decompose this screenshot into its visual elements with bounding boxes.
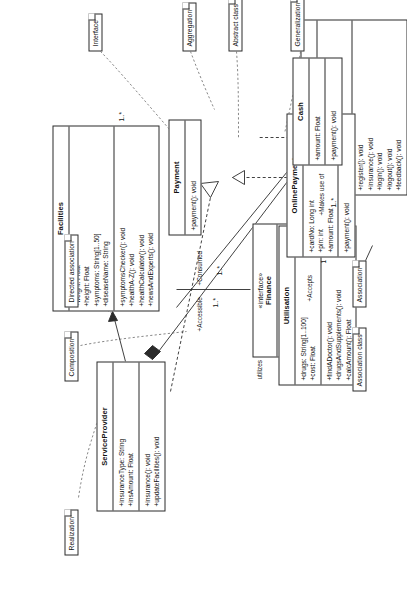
note-interface[interactable]: Interface [88,13,102,51]
multiplicity-facilities-1: 1..* [212,297,218,307]
note-realization[interactable]: Realization [64,509,78,555]
note-leader-interface [100,51,176,137]
method-row: +updateFacilities(): void [151,366,161,506]
multiplicity-util-1: 1..* [118,111,124,121]
method-row: +logout(): void [384,24,394,190]
method-row: +symptomsChecker(): void [117,130,127,306]
note-generalization[interactable]: Generalization [290,0,304,51]
method-row: +payment(): void [328,62,338,160]
edge-label-makes-use-of: +Makes use of [318,173,324,215]
class-payment[interactable]: Payment +payment(): void [168,119,201,235]
class-methods: +payment(): void [325,58,341,164]
class-title: Payment [169,120,185,234]
attribute-row: +height: Float [81,130,91,306]
class-serviceprovider[interactable]: ServiceProvider +insuranceType: String +… [96,361,165,511]
note-composition[interactable]: Composition [64,331,78,381]
edge-label-accessible: +Accessible [196,297,202,331]
realization-triangle [200,181,218,197]
composition-diamond [144,345,160,359]
note-abstract-class[interactable]: Abstract class [228,0,242,51]
class-attributes: +amount: Float [309,58,326,164]
note-directed-association[interactable]: Directed association [64,234,78,307]
class-methods: +register(): void +insurance(): void +lo… [352,20,406,194]
method-row: +payment(): void [188,124,198,230]
multiplicity-facilities-2: 1..* [216,265,222,275]
method-row: +insurance(): void [142,366,152,506]
method-row: +healthCalculator(): void [136,130,146,306]
note-leader-aggregation [190,51,214,109]
edge-label-consumed: +Consumed [196,250,202,285]
method-row: +login(): void [374,24,384,190]
class-cash[interactable]: Cash +amount: Float +payment(): void [292,57,342,165]
method-row: +healthA-Z(): void [126,130,136,306]
class-title: Cash [293,58,309,164]
edge-label-utilizes: utilizes [256,359,262,379]
attribute-row: +amount: Float [312,62,322,160]
method-row: +newsAndExperts(): void [145,130,155,306]
class-title: «interface» Finance [253,224,277,356]
edge-label-accepts: +Accepts [306,275,312,301]
attribute-row: +symptoms: String[1..50] [91,130,101,306]
attribute-row: +insAmount: Float [125,366,135,506]
method-row: +register(): void [355,24,365,190]
makes-use-of-triangle [232,170,244,184]
note-leader-abstract-class [236,51,238,137]
attribute-row: +insuranceType: String [116,366,126,506]
note-association-class[interactable]: Association class [352,327,366,391]
method-row: +payment(): void [341,118,351,252]
method-row: +feedback(): void [393,24,403,190]
class-name: Finance [263,275,272,304]
directed-association-arrowhead [108,311,117,321]
attribute-row: +diseaseName: String [100,130,110,306]
class-methods: +payment(): void [185,120,201,234]
method-row: +insurance(): void [365,24,375,190]
multiplicity-user-1: 1..* [330,197,336,207]
note-association[interactable]: Association [352,260,366,307]
class-methods: +insurance(): void +updateFacilities(): … [139,362,164,510]
note-leader-composition [80,331,186,345]
class-attributes: +insuranceType: String +insAmount: Float [113,362,139,510]
class-title: ServiceProvider [97,362,113,510]
class-methods: +symptomsChecker(): void +healthA-Z(): v… [114,126,158,310]
multiplicity-payment-1: 1 [320,259,326,263]
note-aggregation[interactable]: Aggregation [182,2,196,51]
